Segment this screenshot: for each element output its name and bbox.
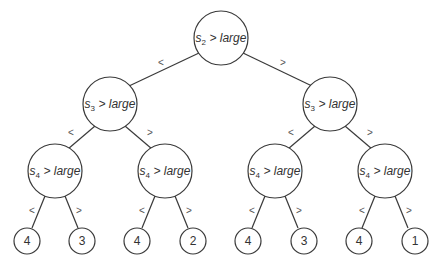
edge-label-lt: <	[139, 205, 145, 216]
edge-label-lt: <	[68, 127, 74, 138]
node-s3-left: s3 > large	[83, 77, 137, 131]
edge-label-gt: >	[406, 205, 412, 216]
leaf-node: 3	[69, 228, 95, 254]
edge-label-gt: >	[186, 205, 192, 216]
node-s4-1: s4 > large	[28, 144, 82, 198]
leaf-node: 4	[346, 228, 372, 254]
leaf-node: 4	[14, 228, 40, 254]
edge-label-gt: >	[280, 57, 286, 68]
node-s3-right: s3 > large	[303, 77, 357, 131]
edge-label-lt: <	[359, 205, 365, 216]
svg-text:4: 4	[24, 234, 31, 248]
edge-label-gt: >	[147, 127, 153, 138]
edge-label-lt: <	[29, 205, 35, 216]
svg-text:4: 4	[245, 234, 252, 248]
edge-root-left	[129, 53, 199, 86]
leaf-node: 3	[291, 228, 317, 254]
edge-label-gt: >	[296, 205, 302, 216]
edge-label-lt: <	[249, 205, 255, 216]
svg-text:2: 2	[190, 234, 197, 248]
leaf-node: 4	[235, 228, 261, 254]
svg-text:4: 4	[134, 234, 141, 248]
edge-root-right	[243, 53, 312, 86]
edge-label-gt: >	[76, 205, 82, 216]
svg-text:3: 3	[301, 234, 308, 248]
edge-label-lt: <	[158, 57, 164, 68]
leaf-node: 2	[180, 228, 206, 254]
edge-label-gt: >	[367, 127, 373, 138]
svg-text:1: 1	[412, 234, 419, 248]
decision-tree-diagram: < > < > < > < > < > < > < > s2 > large s…	[0, 0, 440, 263]
node-s4-3: s4 > large	[248, 144, 302, 198]
leaf-node: 4	[124, 228, 150, 254]
node-s4-2: s4 > large	[138, 144, 192, 198]
node-s4-4: s4 > large	[358, 144, 412, 198]
root-node: s2 > large	[194, 11, 248, 65]
svg-text:4: 4	[356, 234, 363, 248]
edge-label-lt: <	[288, 127, 294, 138]
svg-text:3: 3	[79, 234, 86, 248]
leaf-node: 1	[402, 228, 428, 254]
